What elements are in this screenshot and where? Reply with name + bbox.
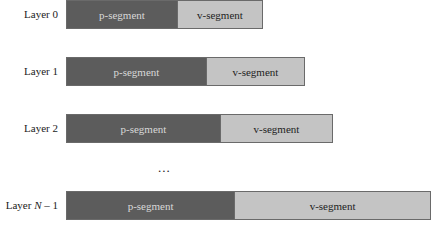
label-variable: N bbox=[34, 199, 41, 211]
layer-n-minus-1-p-segment: p-segment bbox=[67, 192, 234, 219]
layer-n-minus-1-v-segment: v-segment bbox=[234, 192, 430, 219]
layer-n-minus-1-label: Layer N – 1 bbox=[0, 191, 58, 220]
layer-0-p-segment: p-segment bbox=[67, 1, 177, 28]
layer-2-label: Layer 2 bbox=[0, 114, 58, 143]
layer-1-label: Layer 1 bbox=[0, 57, 58, 86]
label-suffix: – 1 bbox=[42, 199, 59, 211]
layer-2-bar: p-segment v-segment bbox=[66, 114, 333, 143]
label-prefix: Layer bbox=[6, 199, 34, 211]
layer-0-v-segment: v-segment bbox=[177, 1, 262, 28]
layer-1-bar: p-segment v-segment bbox=[66, 57, 305, 86]
layer-1-p-segment: p-segment bbox=[67, 58, 206, 85]
layer-n-minus-1-bar: p-segment v-segment bbox=[66, 191, 431, 220]
layer-0-bar: p-segment v-segment bbox=[66, 0, 263, 29]
layer-0-label: Layer 0 bbox=[0, 0, 58, 29]
layer-1-v-segment: v-segment bbox=[206, 58, 304, 85]
ellipsis: ... bbox=[158, 160, 171, 176]
layer-2-v-segment: v-segment bbox=[220, 115, 332, 142]
layer-2-p-segment: p-segment bbox=[67, 115, 220, 142]
